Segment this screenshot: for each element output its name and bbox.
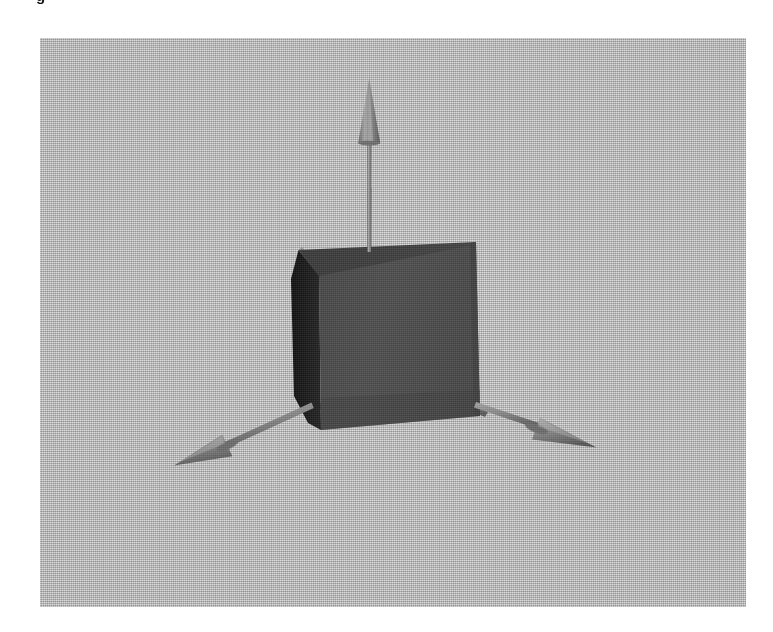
arrow-up-head-base bbox=[358, 140, 380, 145]
axis-arrow-up bbox=[358, 78, 380, 252]
arrow-up-shaft bbox=[367, 142, 371, 252]
document-page: g bbox=[0, 0, 773, 632]
cube-object bbox=[291, 242, 480, 430]
figure-caption-remnant: g bbox=[36, 0, 736, 7]
arrow-left-shaft bbox=[226, 403, 314, 448]
axis-arrow-left bbox=[174, 403, 314, 466]
axis-arrow-right bbox=[474, 402, 597, 448]
three-d-scene bbox=[40, 38, 746, 607]
cube-left-face bbox=[291, 250, 321, 430]
figure-image-panel bbox=[40, 38, 746, 607]
